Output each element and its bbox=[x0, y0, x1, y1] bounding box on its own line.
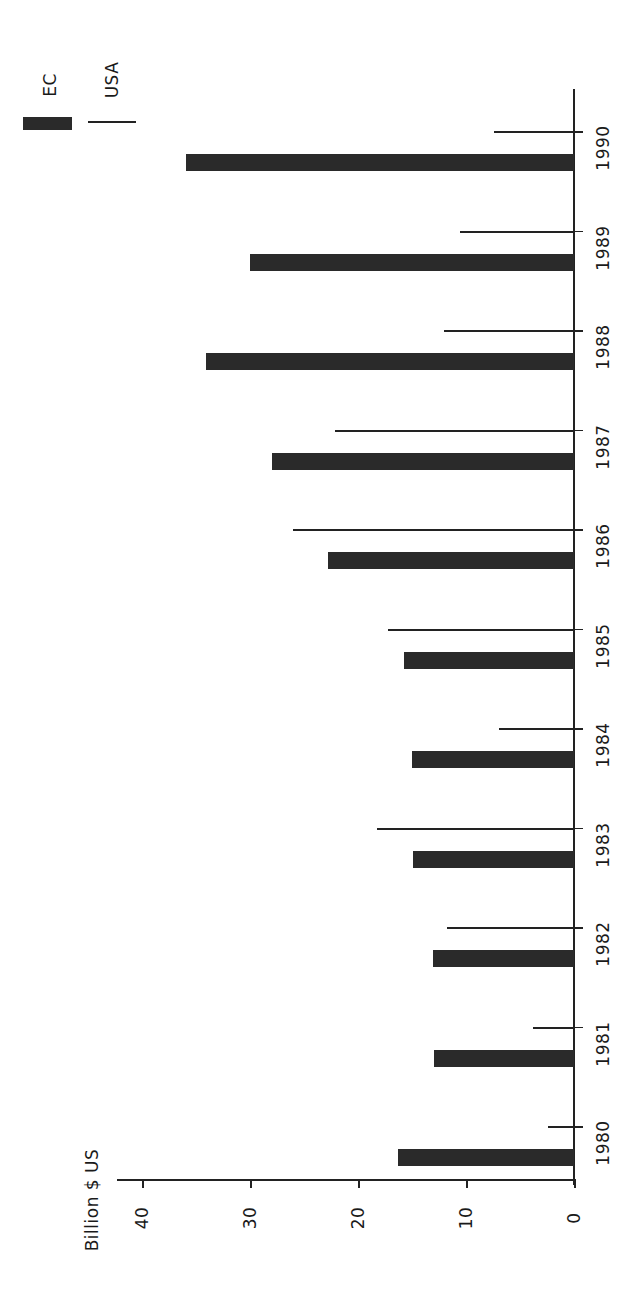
usa-value-line bbox=[494, 131, 574, 133]
year-tick bbox=[574, 529, 583, 531]
year-label: 1983 bbox=[593, 819, 613, 871]
value-tick-label: 0 bbox=[564, 1203, 584, 1233]
year-tick bbox=[574, 330, 583, 332]
ec-bar bbox=[250, 254, 574, 271]
year-label: 1985 bbox=[593, 620, 613, 672]
usa-value-line bbox=[388, 629, 574, 631]
value-axis-title: Billion $ US bbox=[82, 1130, 102, 1270]
value-tick bbox=[142, 1179, 144, 1188]
year-label: 1980 bbox=[593, 1117, 613, 1169]
year-label: 1989 bbox=[593, 222, 613, 274]
ec-bar bbox=[186, 154, 574, 171]
usa-value-line bbox=[548, 1126, 574, 1128]
year-label: 1981 bbox=[593, 1018, 613, 1070]
year-tick bbox=[574, 927, 583, 929]
value-tick-label: 20 bbox=[348, 1203, 368, 1233]
ec-bar bbox=[272, 453, 574, 470]
year-label: 1988 bbox=[593, 321, 613, 373]
year-label: 1982 bbox=[593, 918, 613, 970]
year-label: 1984 bbox=[593, 719, 613, 771]
value-tick-label: 30 bbox=[240, 1203, 260, 1233]
year-tick bbox=[574, 430, 583, 432]
usa-value-line bbox=[533, 1027, 574, 1029]
value-tick-label: 10 bbox=[456, 1203, 476, 1233]
ec-bar bbox=[412, 751, 574, 768]
year-tick bbox=[574, 728, 583, 730]
ec-bar bbox=[434, 1050, 574, 1067]
ec-bar bbox=[404, 652, 574, 669]
legend-usa-line bbox=[88, 121, 136, 123]
value-axis-line bbox=[117, 1179, 575, 1181]
year-tick bbox=[574, 828, 583, 830]
usa-value-line bbox=[447, 927, 574, 929]
usa-value-line bbox=[460, 231, 574, 233]
usa-value-line bbox=[499, 728, 574, 730]
value-tick bbox=[358, 1179, 360, 1188]
year-tick bbox=[574, 629, 583, 631]
ec-bar bbox=[398, 1149, 574, 1166]
year-tick bbox=[574, 231, 583, 233]
year-label: 1990 bbox=[593, 122, 613, 174]
year-label: 1987 bbox=[593, 421, 613, 473]
usa-value-line bbox=[377, 828, 574, 830]
year-tick bbox=[574, 1027, 583, 1029]
value-tick bbox=[466, 1179, 468, 1188]
usa-value-line bbox=[293, 529, 574, 531]
ec-bar bbox=[328, 552, 574, 569]
legend-usa-label: USA bbox=[102, 55, 122, 105]
year-tick bbox=[574, 1126, 583, 1128]
value-tick-label: 40 bbox=[132, 1203, 152, 1233]
year-tick bbox=[574, 131, 583, 133]
legend-ec-swatch bbox=[23, 117, 72, 130]
ec-bar bbox=[413, 851, 574, 868]
legend-ec-label: EC bbox=[40, 65, 60, 105]
ec-bar bbox=[206, 353, 574, 370]
usa-value-line bbox=[444, 330, 574, 332]
usa-value-line bbox=[335, 430, 574, 432]
value-tick bbox=[250, 1179, 252, 1188]
ec-bar bbox=[433, 950, 574, 967]
year-label: 1986 bbox=[593, 520, 613, 572]
value-tick bbox=[574, 1179, 576, 1188]
